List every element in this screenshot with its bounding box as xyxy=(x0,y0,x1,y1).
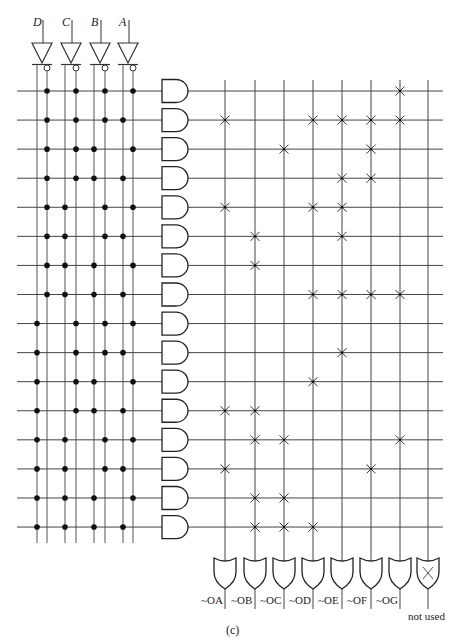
output-label: ~OC xyxy=(260,594,281,606)
buffer-triangle-icon xyxy=(118,43,138,63)
inverter-bubble-icon xyxy=(102,65,108,71)
connection-dot xyxy=(91,495,97,501)
connection-dot xyxy=(130,88,136,94)
connection-dot xyxy=(91,263,97,269)
connection-dot xyxy=(62,466,68,472)
and-gate-icon xyxy=(162,167,188,190)
connection-dot xyxy=(102,350,108,356)
connection-dot xyxy=(102,466,108,472)
output-label: ~OA xyxy=(201,594,223,606)
connection-dot xyxy=(91,175,97,181)
connection-dot xyxy=(130,495,136,501)
buffer-triangle-icon xyxy=(32,43,52,63)
output-label: ~OG xyxy=(376,594,398,606)
buffer-triangle-icon xyxy=(90,43,110,63)
output-label: ~OD xyxy=(289,594,311,606)
connection-dot xyxy=(120,350,126,356)
buffer-triangle-icon xyxy=(61,43,81,63)
connection-dot xyxy=(44,204,50,210)
input-label: D xyxy=(32,15,42,29)
connection-dot xyxy=(130,321,136,327)
output-label: not used xyxy=(408,610,445,622)
or-gate-icon xyxy=(244,558,266,589)
and-gate-icon xyxy=(162,341,188,364)
connection-dot xyxy=(62,263,68,269)
and-gate-icon xyxy=(162,312,188,335)
connection-dot xyxy=(73,350,79,356)
connection-dot xyxy=(62,437,68,443)
connection-dot xyxy=(120,292,126,298)
or-gate-not-used: not used xyxy=(408,558,445,622)
connection-dot xyxy=(62,524,68,530)
connection-dot xyxy=(44,175,50,181)
connection-dot xyxy=(34,408,40,414)
output-label: ~OF xyxy=(347,594,367,606)
connection-dot xyxy=(91,292,97,298)
output-label: ~OE xyxy=(318,594,339,606)
connection-dot xyxy=(44,292,50,298)
input-buffers: DCBA xyxy=(32,15,138,71)
and-gate-icon xyxy=(162,428,188,451)
input-label: C xyxy=(62,15,71,29)
and-gate-icon xyxy=(162,486,188,509)
and-gate-icon xyxy=(162,457,188,480)
input-buffer-b: B xyxy=(90,15,110,71)
connection-dot xyxy=(73,88,79,94)
or-gate-icon xyxy=(302,558,324,589)
connection-dot xyxy=(34,495,40,501)
figure-caption: (c) xyxy=(226,623,239,637)
connection-dot xyxy=(102,88,108,94)
or-gate-icon xyxy=(273,558,295,589)
connection-dot xyxy=(91,146,97,152)
product-term-rows xyxy=(17,91,443,527)
and-gate-icon xyxy=(162,138,188,161)
connection-dot xyxy=(34,350,40,356)
connection-dot xyxy=(34,379,40,385)
connection-dot xyxy=(73,146,79,152)
connection-dot xyxy=(73,379,79,385)
literal-lines xyxy=(37,65,133,544)
connection-dot xyxy=(34,321,40,327)
and-gate-icon xyxy=(162,109,188,132)
or-gate-icon xyxy=(331,558,353,589)
output-label: ~OB xyxy=(231,594,252,606)
connection-dot xyxy=(44,263,50,269)
connection-dot xyxy=(120,117,126,123)
connection-dot xyxy=(73,117,79,123)
connection-dot xyxy=(130,204,136,210)
input-buffer-d: D xyxy=(32,15,52,71)
connection-dot xyxy=(91,379,97,385)
or-gates: ~OA~OB~OC~OD~OE~OF~OGnot used xyxy=(201,558,445,622)
connection-dot xyxy=(102,204,108,210)
connection-dot xyxy=(34,466,40,472)
and-gates xyxy=(162,80,188,539)
inverter-bubble-icon xyxy=(73,65,79,71)
or-gate-icon xyxy=(214,558,236,589)
connection-dot xyxy=(102,117,108,123)
connection-dot xyxy=(62,292,68,298)
pla-diagram: DCBA ~OA~OB~OC~OD~OE~OF~OGnot used (c) xyxy=(0,0,464,643)
connection-dot xyxy=(102,321,108,327)
or-gate-icon xyxy=(389,558,411,589)
and-gate-icon xyxy=(162,399,188,422)
connection-dot xyxy=(34,524,40,530)
inverter-bubble-icon xyxy=(130,65,136,71)
connection-dot xyxy=(91,524,97,530)
and-gate-icon xyxy=(162,80,188,103)
input-buffer-c: C xyxy=(61,15,81,71)
connection-dot xyxy=(44,234,50,240)
connection-dot xyxy=(130,263,136,269)
and-gate-icon xyxy=(162,283,188,306)
connection-dot xyxy=(130,437,136,443)
connection-dot xyxy=(44,117,50,123)
connection-dot xyxy=(62,234,68,240)
and-gate-icon xyxy=(162,254,188,277)
connection-dot xyxy=(102,437,108,443)
connection-dot xyxy=(73,321,79,327)
input-label: B xyxy=(91,15,99,29)
connection-dot xyxy=(102,234,108,240)
or-plane-columns xyxy=(225,80,428,560)
connection-dot xyxy=(120,408,126,414)
and-gate-icon xyxy=(162,225,188,248)
connection-dot xyxy=(73,175,79,181)
